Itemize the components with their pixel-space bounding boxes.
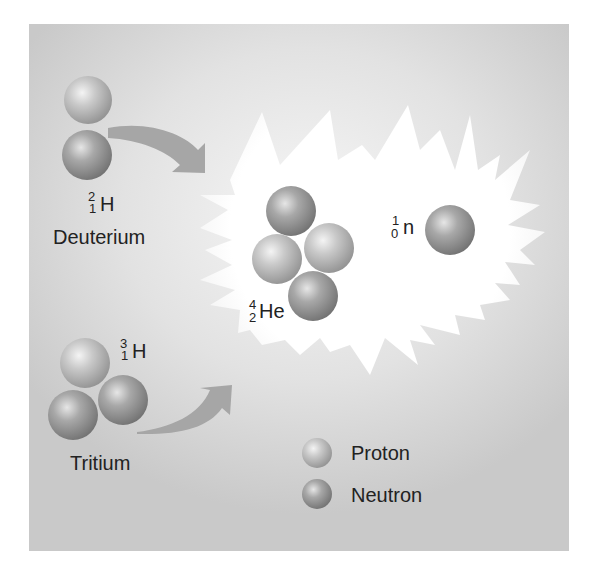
deuterium-proton <box>64 76 112 124</box>
tritium-neutron-1 <box>48 390 98 440</box>
legend-neutron-icon <box>302 479 332 509</box>
tritium-isotope-symbol: 3 1 H <box>120 337 160 365</box>
helium-neutron-1 <box>266 186 316 236</box>
deuterium-label: Deuterium <box>53 227 145 247</box>
helium-isotope-symbol: 4 2 He <box>249 298 293 326</box>
tritium-label: Tritium <box>70 453 130 473</box>
helium-proton-2 <box>304 223 354 273</box>
helium-neutron-2 <box>288 271 338 321</box>
legend-proton-label: Proton <box>351 443 410 463</box>
tritium-proton <box>60 338 110 388</box>
free-neutron <box>425 205 475 255</box>
legend-proton-icon <box>302 438 332 468</box>
deuterium-isotope-symbol: 2 1 H <box>88 190 128 218</box>
neutron-isotope-symbol: 1 0 n <box>391 214 421 242</box>
helium-proton-1 <box>252 234 302 284</box>
tritium-neutron-2 <box>98 375 148 425</box>
deuterium-neutron <box>62 130 112 180</box>
legend-neutron-label: Neutron <box>351 485 422 505</box>
